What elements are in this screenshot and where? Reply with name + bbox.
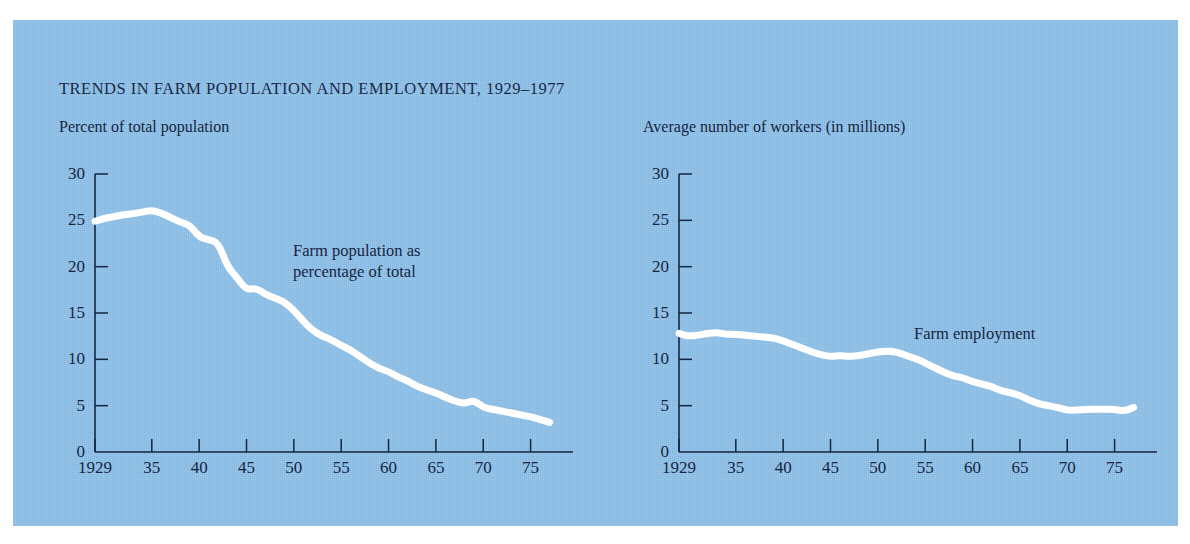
annotation-line: percentage of total bbox=[293, 261, 420, 282]
chart-panel-farm-population: Percent of total population 051015202530… bbox=[45, 118, 605, 498]
chart-panel-farm-employment: Average number of workers (in millions) … bbox=[629, 118, 1189, 498]
chart-svg bbox=[643, 160, 1173, 490]
data-line bbox=[679, 333, 1134, 411]
plot-area-left: 0510152025301929354045505560657075 bbox=[59, 160, 589, 490]
annotation-farm-employment: Farm employment bbox=[914, 323, 1035, 344]
figure-panel: TRENDS IN FARM POPULATION AND EMPLOYMENT… bbox=[13, 20, 1178, 526]
chart-svg bbox=[59, 160, 589, 490]
annotation-line: Farm population as bbox=[293, 240, 420, 261]
panel-subtitle-left: Percent of total population bbox=[59, 118, 229, 136]
annotation-farm-population: Farm population aspercentage of total bbox=[293, 240, 420, 282]
panel-subtitle-right: Average number of workers (in millions) bbox=[643, 118, 905, 136]
plot-area-right: 0510152025301929354045505560657075 bbox=[643, 160, 1173, 490]
figure-title: TRENDS IN FARM POPULATION AND EMPLOYMENT… bbox=[59, 79, 565, 99]
annotation-line: Farm employment bbox=[914, 323, 1035, 344]
